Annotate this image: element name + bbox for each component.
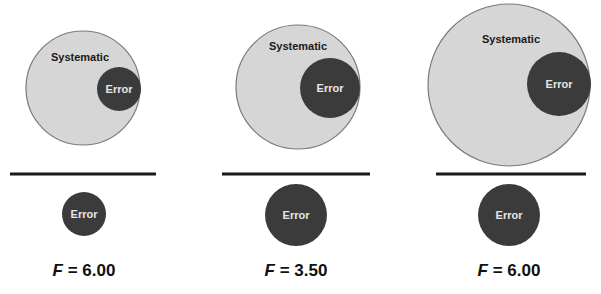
error-label-numerator: Error: [317, 82, 345, 94]
f-variable: F: [53, 261, 64, 280]
f-value-label: F = 6.00: [53, 261, 116, 280]
error-label-denominator: Error: [71, 208, 99, 220]
f-value: 6.00: [507, 261, 540, 280]
error-label-denominator: Error: [496, 209, 524, 221]
f-value: 6.00: [82, 261, 115, 280]
f-ratio-diagram: Systematic Error Error F = 6.00 Systemat…: [0, 0, 601, 294]
error-label-numerator: Error: [106, 83, 134, 95]
f-variable: F: [265, 261, 276, 280]
f-variable: F: [478, 261, 489, 280]
f-value-label: F = 3.50: [265, 261, 328, 280]
panel-1: Systematic Error Error F = 6.00: [10, 31, 156, 280]
systematic-label: Systematic: [482, 33, 540, 45]
panel-2: Systematic Error Error F = 3.50: [222, 25, 370, 280]
f-equals: =: [63, 261, 82, 280]
error-label-numerator: Error: [546, 78, 574, 90]
panel-3: Systematic Error Error F = 6.00: [428, 4, 591, 280]
f-value: 3.50: [294, 261, 327, 280]
f-equals: =: [488, 261, 507, 280]
f-value-label: F = 6.00: [478, 261, 541, 280]
systematic-label: Systematic: [51, 51, 109, 63]
systematic-label: Systematic: [269, 40, 327, 52]
f-equals: =: [275, 261, 294, 280]
error-label-denominator: Error: [283, 209, 311, 221]
